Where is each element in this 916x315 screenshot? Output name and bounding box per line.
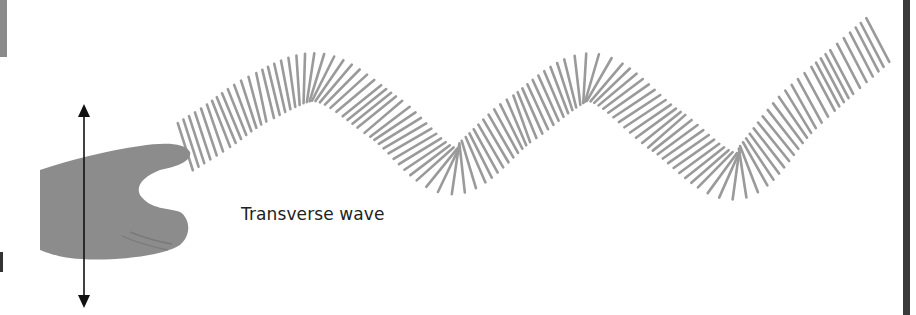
slinky-spring xyxy=(178,18,890,199)
caption-label: Transverse wave xyxy=(241,204,385,224)
transverse-wave-diagram: Transverse wave xyxy=(0,0,916,315)
hand-icon xyxy=(40,144,190,260)
wave-illustration xyxy=(0,0,916,315)
